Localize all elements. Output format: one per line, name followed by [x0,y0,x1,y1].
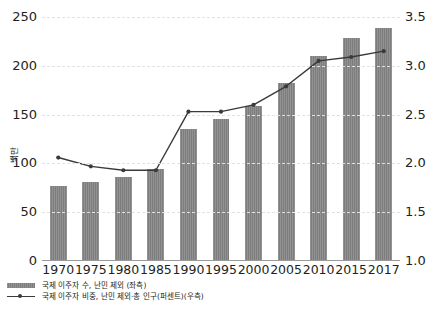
x-axis-tick: 2015 [335,263,367,276]
legend-bar-swatch [7,281,35,291]
bar [343,38,360,261]
y-axis-left-tick: 50 [20,205,37,218]
bar [375,28,392,261]
legend-label-line: 국제 이주자 비중, 난민 제외·총 인구(퍼센트)(우측) [42,292,204,302]
x-axis-tick: 1990 [173,263,205,276]
y-axis-left-tick: 0 [29,254,37,267]
bar [82,182,99,261]
gridline [42,115,400,116]
gridline [42,163,400,164]
bar [147,169,164,261]
y-axis-right-tick: 3.0 [405,59,426,72]
bar [245,106,262,261]
legend-label-bar: 국제 이주자 수, 난민 제외 (좌측) [42,281,146,291]
gridline [42,17,400,18]
y-axis-right-tick: 1.0 [405,254,426,267]
y-axis-right-tick: 2.0 [405,156,426,169]
x-axis-tick: 1985 [140,263,172,276]
legend-item-line: 국제 이주자 비중, 난민 제외·총 인구(퍼센트)(우측) [7,292,427,302]
x-axis-tick: 2000 [238,263,270,276]
chart-legend: 국제 이주자 수, 난민 제외 (좌측) 국제 이주자 비중, 난민 제외·총 … [7,281,427,303]
bar [180,129,197,261]
x-axis-tick: 1970 [42,263,74,276]
y-axis-left-tick: 150 [12,108,37,121]
x-axis-tick: 2017 [368,263,400,276]
x-axis-tick: 2010 [303,263,335,276]
y-axis-left-tick: 100 [12,156,37,169]
x-axis-tick: 1980 [107,263,139,276]
y-axis-right-tick: 3.5 [405,10,426,23]
chart-figure: 백만 총 인구 대비 퍼센트 국제 이주자 수, 난민 제외 (좌측) 국제 이… [0,0,442,314]
y-axis-right-tick: 2.5 [405,108,426,121]
x-axis-tick: 1975 [75,263,107,276]
gridline [42,212,400,213]
y-axis-left-tick: 250 [12,10,37,23]
legend-item-bar: 국제 이주자 수, 난민 제외 (좌측) [7,281,427,291]
y-axis-right-tick: 1.5 [405,205,426,218]
x-axis-line [42,260,400,261]
bar [278,83,295,261]
bar [213,119,230,261]
x-axis-tick: 1995 [205,263,237,276]
gridline [42,66,400,67]
x-axis-tick: 2005 [270,263,302,276]
y-axis-left-tick: 200 [12,59,37,72]
bar [50,186,67,261]
plot-area [42,17,400,261]
bar [310,56,327,261]
legend-line-swatch [7,292,35,302]
bar [115,177,132,261]
